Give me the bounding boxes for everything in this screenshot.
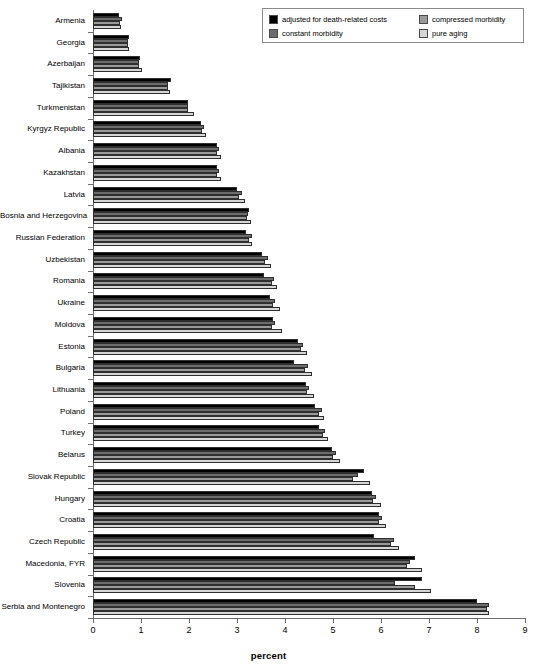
y-axis-label-10: Russian Federation — [0, 233, 85, 242]
x-tick-5 — [333, 618, 334, 623]
y-tick-18 — [88, 423, 93, 424]
x-tick-6 — [381, 618, 382, 623]
y-tick-19 — [88, 444, 93, 445]
x-tick-8 — [477, 618, 478, 623]
legend-entry-compressed-morbidity: compressed morbidity — [419, 15, 529, 24]
y-tick-6 — [88, 162, 93, 163]
y-axis-label-22: Hungary — [0, 494, 85, 503]
legend-swatch-icon-3 — [419, 29, 428, 38]
y-axis-label-25: Macedonia, FYR — [0, 559, 85, 568]
bar-26-3 — [93, 589, 431, 593]
y-axis-label-23: Croatia — [0, 515, 85, 524]
y-axis-label-17: Lithuania — [0, 385, 85, 394]
y-tick-23 — [88, 531, 93, 532]
y-axis-label-7: Kazakhstan — [0, 168, 85, 177]
bar-16-3 — [93, 372, 312, 376]
y-tick-7 — [88, 184, 93, 185]
y-tick-22 — [88, 509, 93, 510]
y-axis-label-3: Tajikistan — [0, 81, 85, 90]
bar-10-3 — [93, 242, 252, 246]
bar-8-3 — [93, 199, 245, 203]
bar-4-3 — [93, 112, 194, 116]
y-tick-11 — [88, 271, 93, 272]
y-tick-20 — [88, 466, 93, 467]
y-tick-0 — [88, 32, 93, 33]
x-tick-0 — [93, 618, 94, 623]
y-tick-24 — [88, 553, 93, 554]
bar-14-3 — [93, 329, 282, 333]
bar-17-3 — [93, 394, 314, 398]
y-tick-27 — [88, 618, 93, 619]
bar-12-3 — [93, 285, 277, 289]
legend-entry-adjusted-for-death-related-costs: adjusted for death-related costs — [269, 15, 419, 24]
legend-label-0: adjusted for death-related costs — [282, 15, 387, 24]
y-axis-label-18: Poland — [0, 407, 85, 416]
x-tick-label-6: 6 — [371, 625, 391, 635]
bar-7-3 — [93, 177, 221, 181]
bar-23-3 — [93, 524, 386, 528]
y-axis-label-24: Czech Republic — [0, 537, 85, 546]
y-axis-label-27: Serbia and Montenegro — [0, 602, 85, 611]
y-tick-17 — [88, 401, 93, 402]
y-axis-label-9: Bosnia and Herzegovina — [0, 211, 85, 220]
x-tick-label-7: 7 — [419, 625, 439, 635]
x-tick-3 — [237, 618, 238, 623]
x-axis-title: percent — [0, 650, 537, 661]
x-tick-2 — [189, 618, 190, 623]
y-axis-label-11: Uzbekistan — [0, 255, 85, 264]
legend-swatch-icon-1 — [419, 15, 428, 24]
bar-6-3 — [93, 155, 221, 159]
legend-label-3: pure aging — [432, 29, 467, 38]
x-tick-1 — [141, 618, 142, 623]
y-tick-21 — [88, 488, 93, 489]
chart-legend: adjusted for death-related costs compres… — [262, 8, 524, 43]
y-tick-2 — [88, 75, 93, 76]
y-axis-label-0: Armenia — [0, 16, 85, 25]
y-tick-14 — [88, 336, 93, 337]
bar-15-3 — [93, 351, 307, 355]
legend-entry-pure-aging: pure aging — [419, 29, 529, 38]
bar-chart: adjusted for death-related costs compres… — [0, 0, 537, 671]
y-tick-5 — [88, 140, 93, 141]
y-axis-label-26: Slovenia — [0, 580, 85, 589]
y-tick-10 — [88, 249, 93, 250]
bar-9-3 — [93, 220, 251, 224]
y-axis-label-2: Azerbaijan — [0, 59, 85, 68]
y-axis-label-14: Moldova — [0, 320, 85, 329]
x-axis-line — [93, 618, 525, 619]
x-tick-9 — [525, 618, 526, 623]
y-tick-16 — [88, 379, 93, 380]
x-tick-7 — [429, 618, 430, 623]
legend-swatch-icon-0 — [269, 15, 278, 24]
x-tick-4 — [285, 618, 286, 623]
y-tick-4 — [88, 119, 93, 120]
y-axis-label-20: Belarus — [0, 450, 85, 459]
y-axis-label-13: Ukraine — [0, 298, 85, 307]
y-axis-label-6: Albania — [0, 146, 85, 155]
bar-22-3 — [93, 503, 381, 507]
y-axis-label-15: Estonia — [0, 342, 85, 351]
legend-grid: adjusted for death-related costs compres… — [269, 12, 517, 40]
bar-11-3 — [93, 264, 271, 268]
legend-entry-constant-morbidity: constant morbidity — [269, 29, 419, 38]
y-tick-13 — [88, 314, 93, 315]
bar-13-3 — [93, 307, 280, 311]
y-axis-label-12: Romania — [0, 276, 85, 285]
y-axis-label-16: Bulgaria — [0, 363, 85, 372]
bar-25-3 — [93, 568, 422, 572]
bar-24-3 — [93, 546, 399, 550]
bar-18-3 — [93, 416, 324, 420]
bar-21-3 — [93, 481, 370, 485]
x-tick-label-9: 9 — [515, 625, 535, 635]
bar-20-3 — [93, 459, 340, 463]
x-tick-label-3: 3 — [227, 625, 247, 635]
y-tick-12 — [88, 292, 93, 293]
x-tick-label-4: 4 — [275, 625, 295, 635]
y-tick-26 — [88, 596, 93, 597]
y-tick-25 — [88, 575, 93, 576]
bar-1-3 — [93, 47, 129, 51]
y-axis-label-4: Turkmenistan — [0, 103, 85, 112]
x-tick-label-2: 2 — [179, 625, 199, 635]
bar-27-3 — [93, 611, 489, 615]
legend-label-1: compressed morbidity — [432, 15, 505, 24]
